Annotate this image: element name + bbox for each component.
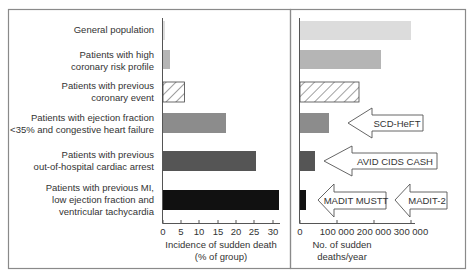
chart-figure: General population Patients with highcor…: [0, 0, 473, 277]
svg-text:25: 25: [249, 226, 260, 237]
right-axis-subtitle: deaths/year: [317, 251, 367, 262]
right-chart: 0 100 000 200 000 300 000 No. of sudden …: [297, 18, 447, 262]
right-bar-general: [300, 21, 411, 40]
label-cardiac-arrest: Patients with previousout-of-hospital ca…: [34, 149, 155, 172]
svg-text:0: 0: [297, 226, 302, 237]
arrow-label-scd-heft: SCD-HeFT: [374, 118, 421, 129]
label-high-risk: Patients with highcoronary risk profile: [71, 49, 154, 72]
left-bar-general: [163, 21, 165, 40]
left-tick-labels: 0 5 10 15 20 25 30 Incidence of sudden d…: [160, 226, 278, 262]
arrow-scd-heft: SCD-HeFT: [348, 108, 423, 138]
left-bar-high-risk: [163, 50, 170, 69]
label-previous-mi: Patients with previous MI,low ejection f…: [46, 182, 155, 217]
label-general-population: General population: [74, 24, 154, 35]
left-bar-cardiac-arrest: [163, 151, 256, 171]
arrow-madit-2: MADIT-2: [395, 184, 447, 217]
arrow-madit-mustt: MADIT MUSTT: [318, 184, 389, 217]
arrow-avid-cids-cash: AVID CIDS CASH: [324, 146, 437, 176]
row-labels: General population Patients with highcor…: [10, 24, 155, 217]
arrow-label-madit-2: MADIT-2: [408, 195, 445, 206]
left-bar-previous-mi: [163, 190, 279, 210]
svg-text:0: 0: [160, 226, 165, 237]
left-axis-subtitle: (% of group): [195, 251, 247, 262]
figure: General population Patients with highcor…: [0, 0, 473, 277]
right-bar-cardiac-arrest: [300, 151, 315, 171]
left-bar-ejection-fraction: [163, 113, 226, 133]
left-axis-title: Incidence of sudden death: [165, 239, 276, 250]
svg-text:5: 5: [178, 226, 183, 237]
left-bar-coronary-event: [163, 82, 185, 102]
right-bar-high-risk: [300, 50, 381, 69]
svg-text:100 000: 100 000: [320, 226, 354, 237]
svg-text:10: 10: [194, 226, 205, 237]
right-axis-title: No. of sudden: [312, 239, 371, 250]
arrow-label-avid-cids-cash: AVID CIDS CASH: [357, 156, 433, 167]
svg-text:300 000: 300 000: [394, 226, 428, 237]
svg-text:200 000: 200 000: [357, 226, 391, 237]
right-bar-ejection-fraction: [300, 113, 329, 133]
svg-text:15: 15: [213, 226, 224, 237]
svg-text:20: 20: [231, 226, 242, 237]
right-bar-coronary-event: [300, 82, 359, 102]
label-ejection-fraction: Patients with ejection fraction<35% and …: [10, 112, 154, 135]
label-previous-coronary-event: Patients with previouscoronary event: [62, 80, 155, 103]
arrow-label-madit-mustt: MADIT MUSTT: [324, 195, 389, 206]
left-chart: 0 5 10 15 20 25 30 Incidence of sudden d…: [160, 18, 280, 262]
right-bar-previous-mi: [300, 190, 306, 210]
right-tick-labels: 0 100 000 200 000 300 000 No. of sudden …: [297, 226, 428, 262]
svg-text:30: 30: [268, 226, 279, 237]
